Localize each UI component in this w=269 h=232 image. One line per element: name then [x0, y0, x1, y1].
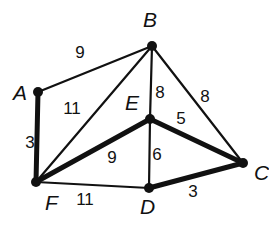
vertex-e: [145, 114, 155, 124]
edge-e-d: [149, 119, 150, 188]
edge-weight-e-c: 5: [176, 109, 185, 128]
edge-a-b: [38, 46, 152, 92]
vertex-label-c: C: [254, 161, 269, 184]
edge-a-f: [36, 92, 38, 182]
edge-weight-e-d: 6: [152, 145, 161, 164]
vertex-label-b: B: [143, 8, 157, 31]
vertex-b: [147, 41, 157, 51]
edge-b-f: [36, 46, 152, 182]
edge-weight-d-c: 3: [188, 182, 197, 201]
edge-b-c: [152, 46, 243, 163]
edge-e-c: [150, 119, 243, 163]
edge-weight-b-f: 11: [63, 99, 81, 118]
vertex-f: [31, 177, 41, 187]
edge-f-d: [36, 182, 149, 188]
vertex-c: [238, 158, 248, 168]
edge-weight-a-f: 3: [25, 133, 34, 152]
edge-weight-b-c: 8: [200, 87, 209, 106]
vertex-a: [33, 87, 43, 97]
vertex-label-d: D: [140, 195, 155, 218]
vertex-d: [144, 183, 154, 193]
edge-b-e: [150, 46, 152, 119]
vertex-label-a: A: [11, 81, 27, 104]
vertex-label-f: F: [45, 191, 59, 214]
edge-weight-a-b: 9: [75, 43, 84, 62]
edge-weight-f-e: 9: [107, 148, 116, 167]
vertex-label-e: E: [125, 91, 140, 114]
edge-weight-f-d: 11: [76, 190, 94, 209]
edge-f-e: [36, 119, 150, 182]
edge-weight-b-e: 8: [155, 83, 164, 102]
weighted-graph: 931188596113ABECDF: [0, 0, 269, 232]
